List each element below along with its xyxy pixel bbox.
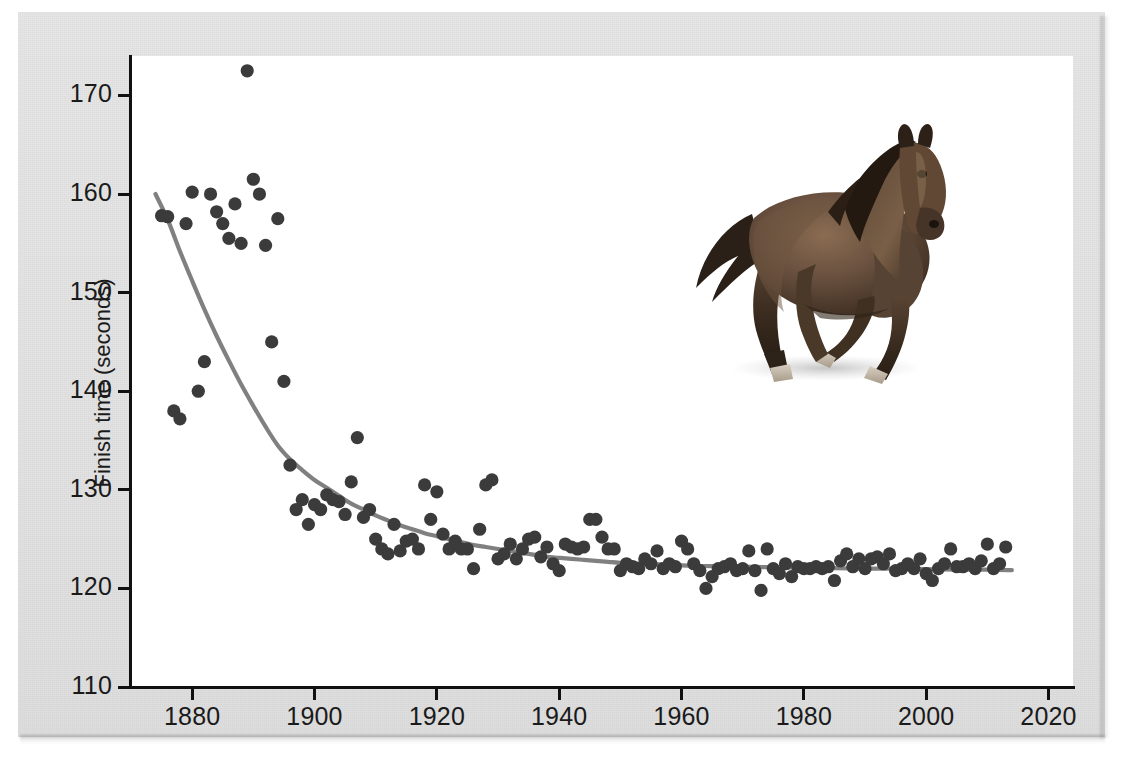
y-axis-tick-label: 110 (0, 671, 112, 700)
page-shadow-right (1100, 16, 1110, 738)
y-axis-title: Finish time (seconds) (90, 218, 116, 548)
figure-page: 1101201301401501601701880190019201940196… (0, 0, 1129, 767)
y-axis-tick-label: 170 (0, 79, 112, 108)
x-axis-tick-label: 1920 (377, 702, 497, 731)
x-axis-tick (435, 689, 438, 700)
page-shadow-bottom (20, 735, 1105, 744)
x-axis-tick (802, 689, 805, 700)
y-axis-line (129, 55, 132, 688)
y-axis-tick (118, 488, 129, 491)
x-axis-tick-label: 2000 (866, 702, 986, 731)
y-axis-tick (118, 686, 129, 689)
y-axis-tick (118, 193, 129, 196)
x-axis-tick (925, 689, 928, 700)
x-axis-tick (191, 689, 194, 700)
x-axis-line (129, 686, 1075, 689)
x-axis-tick-label: 1880 (132, 702, 252, 731)
x-axis-tick-label: 2020 (989, 702, 1109, 731)
x-axis-tick-label: 1980 (744, 702, 864, 731)
y-axis-tick (118, 94, 129, 97)
y-axis-tick (118, 390, 129, 393)
galloping-horse-illustration (694, 122, 966, 384)
x-axis-tick (680, 689, 683, 700)
y-axis-tick (118, 291, 129, 294)
y-axis-tick (118, 587, 129, 590)
x-axis-tick (1047, 689, 1050, 700)
y-axis-tick-label: 160 (0, 178, 112, 207)
x-axis-tick (313, 689, 316, 700)
x-axis-tick (558, 689, 561, 700)
x-axis-tick-label: 1960 (622, 702, 742, 731)
y-axis-tick-label: 120 (0, 572, 112, 601)
x-axis-tick-label: 1940 (499, 702, 619, 731)
x-axis-tick-label: 1900 (255, 702, 375, 731)
